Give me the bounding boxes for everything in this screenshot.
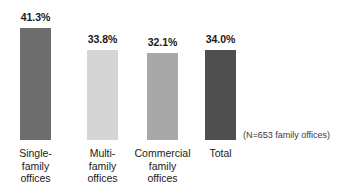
- bar-category-line-1: Commercial: [134, 147, 190, 160]
- bar-value-label: 33.8%: [88, 33, 117, 45]
- bar-rect: [87, 50, 118, 140]
- bar-category-label: Total: [209, 147, 231, 160]
- bar-value-label: 41.3%: [21, 11, 50, 23]
- bar-category-line-1: Single-: [19, 147, 52, 160]
- bar-category-line-3: offices: [87, 172, 117, 185]
- bar-group-single-family: 41.3% Single- family offices: [20, 28, 51, 140]
- bar-category-label: Commercial family offices: [134, 147, 190, 185]
- bar-category-line-2: family: [134, 160, 190, 173]
- bar-group-multi-family: 33.8% Multi- family offices: [87, 50, 118, 140]
- bar-value-label: 34.0%: [206, 33, 235, 45]
- plot-area: 41.3% Single- family offices 33.8% Multi…: [0, 0, 354, 194]
- bar-value-label: 32.1%: [148, 36, 177, 48]
- sample-size-note: (N=653 family offices): [243, 130, 330, 140]
- bar-category-line-3: offices: [19, 172, 52, 185]
- bar-chart: 41.3% Single- family offices 33.8% Multi…: [0, 0, 354, 194]
- bar-category-line-2: family: [19, 160, 52, 173]
- bar-category-line-1: Multi-: [87, 147, 117, 160]
- bar-category-line-2: family: [87, 160, 117, 173]
- bar-category-label: Multi- family offices: [87, 147, 117, 185]
- bar-rect: [20, 28, 51, 140]
- bar-rect: [205, 50, 236, 140]
- bar-group-total: 34.0% Total: [205, 50, 236, 140]
- bar-rect: [147, 53, 178, 140]
- bar-group-commercial-family: 32.1% Commercial family offices: [147, 53, 178, 140]
- bar-category-line-3: offices: [134, 172, 190, 185]
- bar-category-label: Single- family offices: [19, 147, 52, 185]
- bar-category-line-1: Total: [209, 147, 231, 160]
